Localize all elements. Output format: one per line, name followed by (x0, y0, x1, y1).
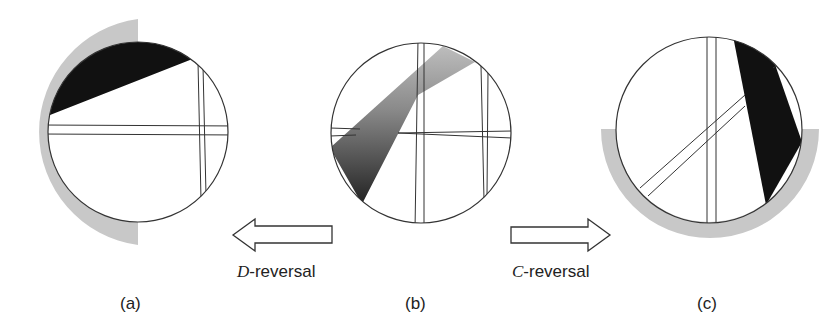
panel-label-b: (b) (405, 294, 426, 314)
arrow-left-icon (233, 219, 332, 251)
c-reversal-label: C-reversal (512, 262, 589, 282)
d-suffix: -reversal (249, 262, 315, 281)
panel-label-a: (a) (120, 294, 141, 314)
panel-c (601, 30, 819, 238)
d-reversal-label: D-reversal (237, 262, 315, 282)
panel-a (39, 19, 240, 245)
panel-label-c: (c) (697, 294, 717, 314)
c-symbol: C (512, 262, 523, 281)
panel-b (330, 40, 512, 230)
c-suffix: -reversal (523, 262, 589, 281)
d-symbol: D (237, 262, 249, 281)
gradient-wedge (330, 46, 475, 204)
arrow-right-icon (511, 219, 610, 251)
diagram-canvas (0, 0, 837, 336)
